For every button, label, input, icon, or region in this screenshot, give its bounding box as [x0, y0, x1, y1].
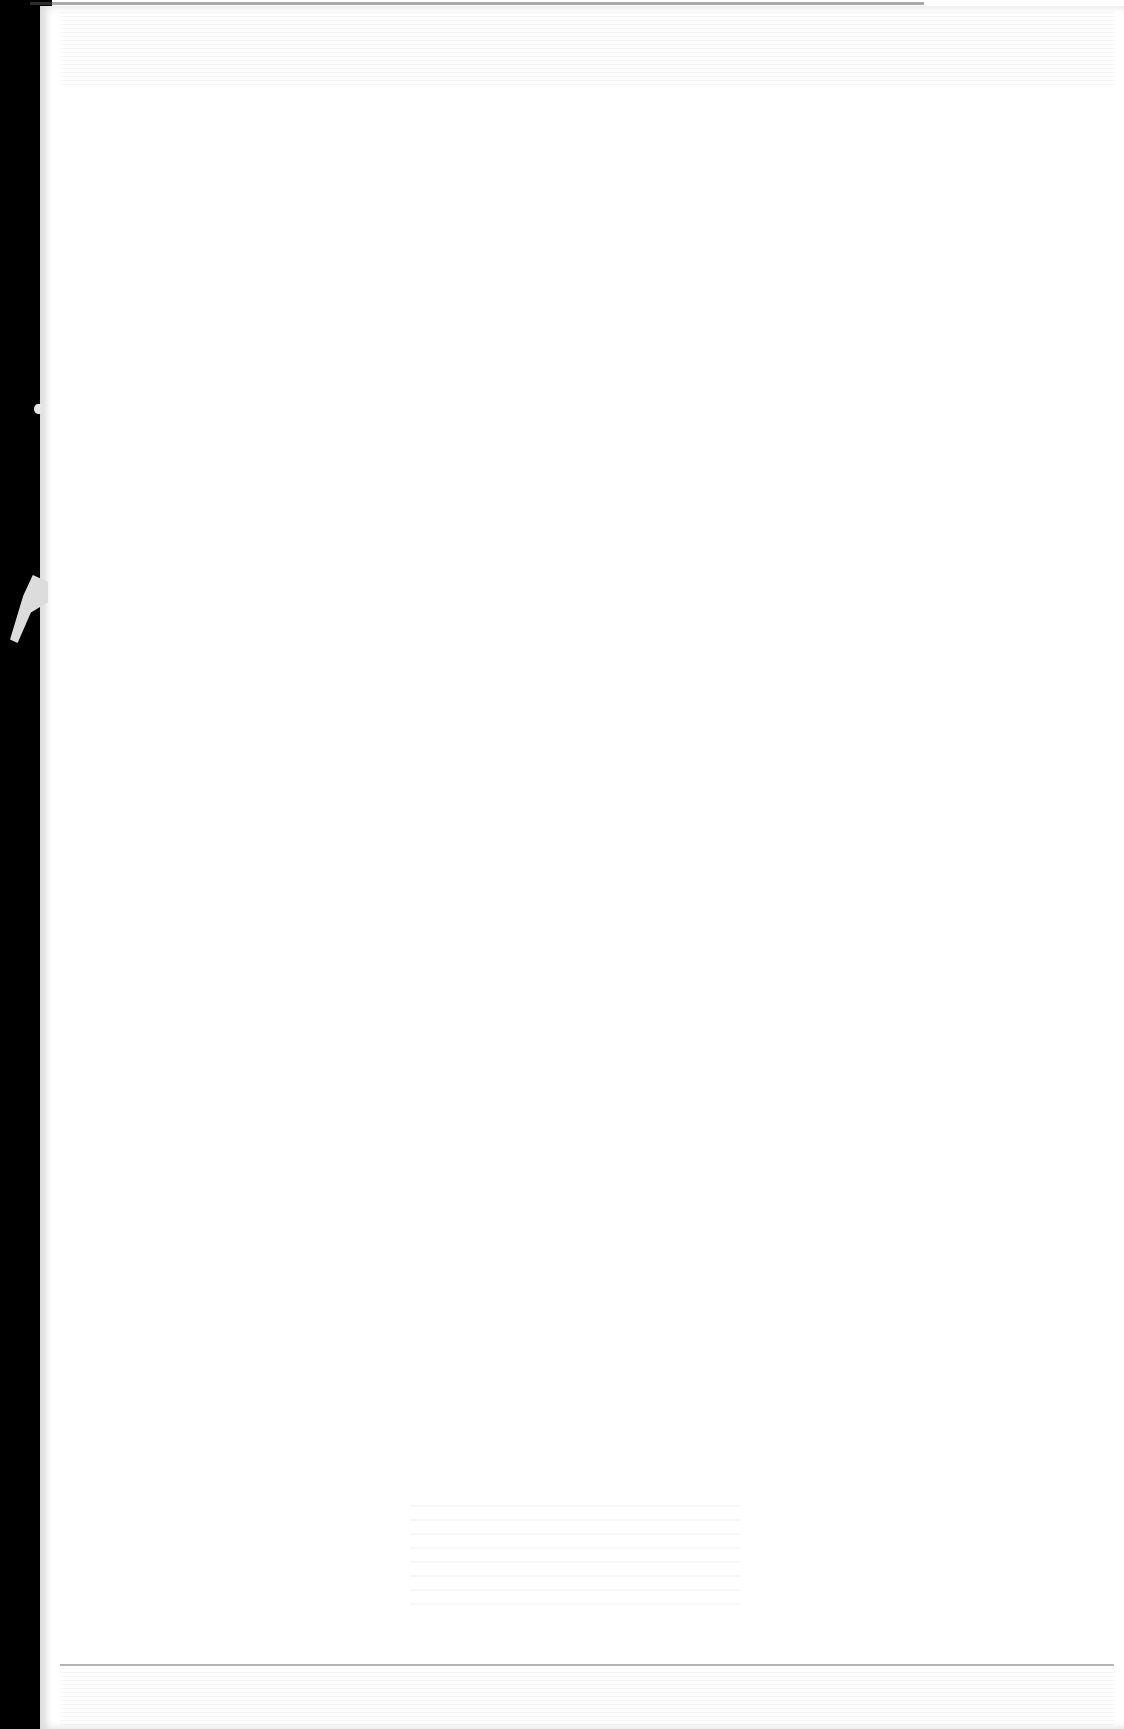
- show-through-text-middle: [410, 1505, 740, 1605]
- top-edge-shadow: [30, 2, 924, 5]
- show-through-text-bottom: [60, 1665, 1114, 1725]
- show-through-text-top: [60, 10, 1114, 85]
- page-edge-nub: [34, 404, 42, 414]
- blank-page: [40, 6, 1124, 1729]
